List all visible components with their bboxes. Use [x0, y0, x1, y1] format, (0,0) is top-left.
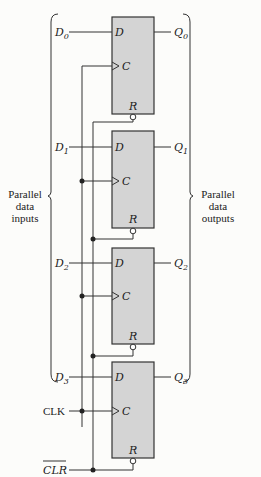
left-brace: [48, 14, 58, 382]
svg-text:R: R: [128, 330, 137, 343]
clock-bus: [82, 66, 112, 427]
svg-text:R: R: [128, 444, 137, 457]
clr-label: CLR: [43, 461, 67, 477]
parallel-data-outputs-label: Parallel data outputs: [201, 188, 235, 224]
svg-text:R: R: [128, 100, 137, 113]
right-brace: [183, 14, 193, 382]
svg-text:D: D: [114, 257, 124, 270]
flip-flop-1: D1 Q1 D C R: [54, 131, 188, 242]
clk-label: CLK: [43, 405, 65, 417]
input-d3: D3: [54, 371, 69, 386]
svg-text:D: D: [114, 26, 124, 39]
flip-flop-0: D0 Q0 D C R: [54, 17, 188, 122]
svg-text:Parallel: Parallel: [201, 188, 235, 200]
output-q2: Q2: [174, 257, 188, 272]
svg-text:outputs: outputs: [202, 212, 234, 224]
flip-flop-3: D3 Q3 D C R: [54, 362, 188, 473]
svg-text:R: R: [128, 213, 137, 226]
svg-text:data: data: [16, 200, 34, 212]
flip-flop-2: D2 Q2 D C R: [54, 248, 188, 359]
output-q0: Q0: [174, 26, 188, 41]
input-d0: D0: [54, 26, 69, 41]
input-d1: D1: [54, 141, 69, 156]
svg-text:data: data: [209, 200, 227, 212]
input-d2: D2: [54, 257, 69, 272]
svg-text:D: D: [114, 141, 124, 154]
svg-text:D: D: [114, 371, 124, 384]
output-q1: Q1: [174, 141, 188, 156]
svg-text:C: C: [122, 175, 131, 188]
svg-text:C: C: [122, 290, 131, 303]
svg-text:CLR: CLR: [43, 464, 67, 477]
svg-text:C: C: [122, 60, 131, 73]
parallel-data-inputs-label: Parallel data inputs: [8, 188, 42, 224]
parallel-register-diagram: Parallel data inputs Parallel data outpu…: [0, 0, 261, 477]
svg-text:C: C: [122, 405, 131, 418]
svg-text:inputs: inputs: [12, 212, 39, 224]
svg-text:Parallel: Parallel: [8, 188, 42, 200]
output-q3: Q3: [174, 371, 188, 386]
